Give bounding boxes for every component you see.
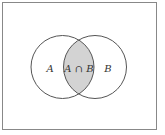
set-a-label: A xyxy=(45,63,53,74)
set-b-label: B xyxy=(103,63,111,74)
intersection-label: A ∩ B xyxy=(63,63,93,74)
venn-diagram: A A ∩ B B xyxy=(0,0,165,135)
